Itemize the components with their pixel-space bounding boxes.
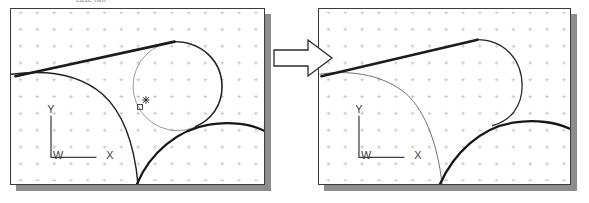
axis-lines	[359, 116, 404, 158]
point-marker-icon[interactable]	[11, 9, 264, 184]
left-boundary-arc	[11, 73, 138, 184]
block-arrow-right-icon	[272, 36, 334, 80]
axis-label-w: W	[361, 149, 372, 161]
axis-label-y: Y	[47, 103, 54, 115]
figure-root: case two	[0, 0, 589, 203]
right-viewport[interactable]: Y W X	[318, 8, 571, 185]
blended-upper-profile	[477, 40, 522, 126]
right-grid	[319, 9, 570, 184]
right-axes: Y W X	[319, 9, 570, 184]
left-grid	[11, 9, 264, 184]
left-axes: Y W X	[11, 9, 264, 184]
blend-circle	[133, 42, 222, 131]
left-boundary-arc	[319, 73, 442, 184]
left-viewport[interactable]: Y W X	[10, 8, 265, 185]
axis-lines	[51, 116, 96, 158]
right-geometry	[319, 9, 570, 184]
lower-right-arc	[440, 121, 570, 184]
axis-label-x: X	[414, 149, 422, 161]
top-caption: case two	[76, 0, 106, 2]
axis-label-w: W	[53, 149, 64, 161]
upper-right-arc	[174, 42, 222, 127]
tangent-construction-line	[321, 40, 477, 77]
axis-label-y: Y	[355, 103, 362, 115]
axis-label-x: X	[106, 149, 114, 161]
lower-right-arc	[137, 123, 264, 184]
tangent-construction-line	[15, 42, 174, 77]
left-geometry	[11, 9, 264, 184]
